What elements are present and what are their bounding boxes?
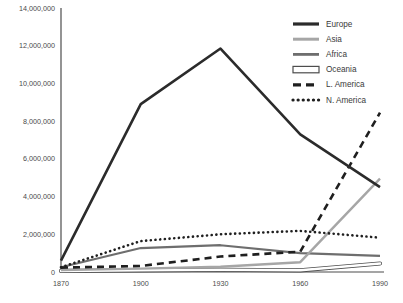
series-line-n-america (61, 231, 380, 267)
y-axis-tick-label: 8,000,000 (23, 117, 55, 126)
y-axis-tick-label: 12,000,000 (19, 41, 55, 50)
y-axis-tick-label: 14,000,000 (19, 4, 55, 13)
x-axis-tick-label: 1990 (372, 279, 388, 288)
legend-swatch-oceania (293, 66, 319, 72)
x-axis-tick-label: 1930 (213, 279, 229, 288)
legend-item-asia[interactable]: Asia (293, 35, 342, 44)
legend-label-europe: Europe (326, 20, 353, 29)
chart-canvas: 02,000,0004,000,0006,000,0008,000,00010,… (0, 0, 403, 303)
legend-item-africa[interactable]: Africa (293, 50, 347, 59)
legend-label-asia: Asia (326, 35, 342, 44)
legend-label-africa: Africa (326, 50, 347, 59)
legend-item-oceania[interactable]: Oceania (293, 65, 357, 74)
legend-item-europe[interactable]: Europe (293, 20, 353, 29)
legend-label-l-america: L. America (326, 80, 365, 89)
legend-item-n-america[interactable]: N. America (293, 96, 366, 105)
line-chart: 02,000,0004,000,0006,000,0008,000,00010,… (0, 0, 403, 303)
y-axis-tick-label: 0 (51, 268, 55, 277)
y-axis-tick-label: 4,000,000 (23, 192, 55, 201)
y-axis-tick-label: 2,000,000 (23, 230, 55, 239)
x-axis-tick-label: 1900 (133, 279, 149, 288)
y-axis-tick-label: 6,000,000 (23, 154, 55, 163)
legend-label-oceania: Oceania (326, 65, 357, 74)
legend-label-n-america: N. America (326, 96, 366, 105)
chart-axes (61, 8, 384, 272)
y-axis-tick-label: 10,000,000 (19, 79, 55, 88)
x-axis-tick-label: 1960 (292, 279, 308, 288)
x-axis-tick-label: 1870 (53, 279, 69, 288)
legend-item-l-america[interactable]: L. America (293, 80, 365, 89)
